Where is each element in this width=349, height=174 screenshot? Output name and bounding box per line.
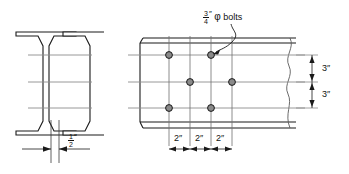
vdim-arrow-lower-top — [309, 83, 314, 90]
bolt-note-label: 3 4 ″ φ bolts — [203, 9, 242, 25]
plate-left-edge-top — [140, 38, 143, 43]
web-thickness-inch-mark: ″ — [74, 132, 77, 141]
break-line — [287, 38, 292, 128]
bolt-note-arrowhead — [213, 50, 221, 55]
hdim-arrow-3-left — [211, 146, 218, 151]
ibeam-outline — [16, 32, 76, 135]
bolt-hole-middle-left — [187, 79, 194, 86]
vdim-arrow-upper-bottom — [309, 74, 314, 81]
bolt-hole-middle-right — [229, 79, 236, 86]
horizontal-dimension-3-label: 2″ — [216, 134, 224, 143]
vdim-arrow-upper-top — [309, 56, 314, 63]
hdim-arrow-2-left — [190, 146, 197, 151]
bolt-note-word: bolts — [223, 12, 242, 22]
web-dim-arrow-right — [59, 146, 67, 151]
bolt-hole-bottom-right — [208, 105, 215, 112]
horizontal-dimension-1-label: 2″ — [174, 134, 182, 143]
hdim-arrow-2-right — [204, 146, 211, 151]
plate-left-edge-bottom — [140, 122, 143, 128]
bolt-hole-bottom-left — [166, 105, 173, 112]
vertical-dimension-upper-label: 3″ — [322, 64, 330, 73]
vertical-dimension-lower-label: 3″ — [322, 90, 330, 99]
phi-symbol: φ — [214, 11, 220, 22]
horizontal-dimension-2-label: 2″ — [195, 134, 203, 143]
bolt-hole-top-right — [208, 52, 215, 59]
bolt-diameter-denominator: 4 — [203, 18, 209, 25]
web-thickness-denominator: 2 — [68, 141, 74, 148]
hdim-arrow-1-right — [183, 146, 190, 151]
drawing-svg — [0, 0, 349, 174]
web-thickness-label: 1 2 ″ — [68, 133, 77, 149]
web-dim-arrow-left — [43, 146, 51, 151]
engineering-drawing: 3 4 ″ φ bolts 1 2 ″ 3″ 3″ 2″ 2″ 2″ — [0, 0, 349, 174]
bolt-diameter-inch-mark: ″ — [209, 9, 212, 18]
hdim-arrow-3-right — [225, 146, 232, 151]
hdim-arrow-1-left — [169, 146, 176, 151]
bolt-hole-top-left — [166, 52, 173, 59]
ibeam-outline-mirror — [63, 32, 104, 135]
vdim-arrow-lower-bottom — [309, 100, 314, 107]
ibeam-section-view — [16, 32, 104, 163]
